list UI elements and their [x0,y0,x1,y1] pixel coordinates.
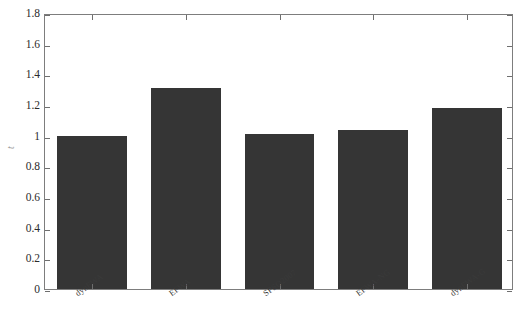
figure-caption [150,328,410,336]
y-axis-tick [507,199,512,200]
y-axis-tick [507,15,512,16]
x-axis-tick [280,15,281,20]
y-axis-tick-label: 0.4 [4,223,40,235]
y-axis-tick-label: 1.6 [4,39,40,51]
y-axis-tick [507,230,512,231]
y-axis-tick [45,15,50,16]
y-axis-tick [507,168,512,169]
y-axis-tick-label: 0.6 [4,192,40,204]
y-axis-tick [45,76,50,77]
y-axis-tick [507,46,512,47]
x-axis-tick [467,15,468,20]
y-axis-tick-label: 1.8 [4,8,40,20]
bar-efwa [151,88,221,289]
y-axis-tick [45,46,50,47]
y-axis-tick [45,138,50,139]
y-axis-tick-label: 0 [4,284,40,296]
y-axis-tick [45,230,50,231]
bar-dynfwa [57,136,127,289]
plot-area [44,14,513,290]
y-axis-tick-label: 0.8 [4,161,40,173]
y-axis-tick [45,199,50,200]
y-axis-tick [507,107,512,108]
bar-dynfwa-g [432,108,502,289]
bar-spso2007 [245,134,315,289]
y-axis-tick-label: 1.2 [4,100,40,112]
y-axis-tick-labels: 00.20.40.60.811.21.41.61.8 [0,0,40,336]
bar-chart-figure: t 00.20.40.60.811.21.41.61.8 dynFWAEFWAS… [0,0,529,336]
y-axis-tick [507,76,512,77]
y-axis-tick [45,107,50,108]
y-axis-tick [45,168,50,169]
x-axis-tick [373,15,374,20]
y-axis-tick-label: 1 [4,131,40,143]
x-axis-tick [92,15,93,20]
bar-efwa-ng [338,130,408,289]
y-axis-tick [507,260,512,261]
y-axis-tick [45,260,50,261]
y-axis-tick-label: 1.4 [4,69,40,81]
y-axis-tick-label: 0.2 [4,253,40,265]
x-axis-tick [186,15,187,20]
y-axis-tick [507,138,512,139]
